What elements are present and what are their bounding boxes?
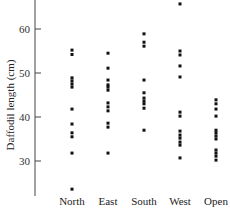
data-point xyxy=(179,75,182,78)
y-tick-label: 50 xyxy=(19,67,31,79)
data-point xyxy=(215,138,218,141)
data-point xyxy=(107,52,110,55)
data-point xyxy=(215,108,218,111)
data-point xyxy=(71,123,74,126)
data-point xyxy=(107,122,110,125)
data-point xyxy=(71,86,74,89)
data-point xyxy=(71,53,74,56)
data-point xyxy=(215,155,218,158)
data-point xyxy=(71,135,74,138)
data-point xyxy=(143,41,146,44)
data-point xyxy=(143,102,146,105)
x-category-labels: NorthEastSouthWestOpen xyxy=(59,195,228,207)
data-point xyxy=(143,129,146,132)
y-tick-label: 30 xyxy=(19,155,31,167)
data-point xyxy=(179,134,182,137)
data-points xyxy=(71,2,218,190)
data-point xyxy=(71,131,74,134)
data-point xyxy=(215,131,218,134)
data-point xyxy=(143,100,146,103)
data-point xyxy=(71,83,74,86)
dot-plot-chart: 30405060 NorthEastSouthWestOpen Daffodil… xyxy=(0,0,230,209)
data-point xyxy=(179,53,182,56)
data-point xyxy=(215,102,218,105)
data-point xyxy=(107,67,110,70)
data-point xyxy=(215,134,218,137)
data-point xyxy=(143,32,146,35)
data-point xyxy=(107,79,110,82)
data-point xyxy=(179,137,182,140)
y-tick-label: 40 xyxy=(19,111,31,123)
data-point xyxy=(107,126,110,129)
data-point xyxy=(215,149,218,152)
data-point xyxy=(215,129,218,132)
data-point xyxy=(71,76,74,79)
data-point xyxy=(179,50,182,53)
data-point xyxy=(179,115,182,118)
data-point xyxy=(215,98,218,101)
data-point xyxy=(179,111,182,114)
data-point xyxy=(107,89,110,92)
data-point xyxy=(107,86,110,89)
category-label-north: North xyxy=(59,195,85,207)
category-label-east: East xyxy=(99,195,118,207)
y-tick-label: 60 xyxy=(19,23,31,35)
data-point xyxy=(179,141,182,144)
data-point xyxy=(179,156,182,159)
data-point xyxy=(143,45,146,48)
data-point xyxy=(107,105,110,108)
data-point xyxy=(107,109,110,112)
category-label-open: Open xyxy=(204,195,228,207)
category-label-west: West xyxy=(169,195,191,207)
y-axis: 30405060 xyxy=(19,0,41,196)
data-point xyxy=(179,64,182,67)
data-point xyxy=(71,79,74,82)
data-point xyxy=(143,107,146,110)
data-point xyxy=(215,159,218,162)
data-point xyxy=(179,130,182,133)
data-point xyxy=(71,152,74,155)
data-point xyxy=(143,79,146,82)
data-point xyxy=(71,108,74,111)
y-axis-label: Daffodil length (cm) xyxy=(4,59,17,150)
data-point xyxy=(107,101,110,104)
data-point xyxy=(71,49,74,52)
data-point xyxy=(143,91,146,94)
data-point xyxy=(179,2,182,5)
data-point xyxy=(179,144,182,147)
data-point xyxy=(215,152,218,155)
category-label-south: South xyxy=(131,195,157,207)
data-point xyxy=(143,97,146,100)
data-point xyxy=(71,188,74,191)
data-point xyxy=(215,115,218,118)
data-point xyxy=(107,152,110,155)
